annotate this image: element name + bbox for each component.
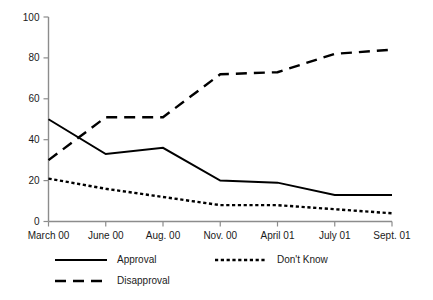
y-tick-label: 80 (28, 52, 40, 63)
series-line-approval (49, 119, 393, 195)
y-tick-label-group: 020406080100 (23, 12, 40, 228)
series-line-don-t-know (49, 179, 393, 214)
series-line-disapproval (49, 50, 393, 160)
x-axis: March 00June 00Aug. 00Nov. 00April 01Jul… (28, 222, 411, 241)
y-tick-label: 60 (28, 93, 40, 104)
x-tick-label: Nov. 00 (203, 230, 237, 241)
line-chart: 020406080100 March 00June 00Aug. 00Nov. … (0, 0, 433, 300)
y-tick-label: 100 (23, 12, 40, 23)
y-tick-label: 20 (28, 175, 40, 186)
legend-label-disapproval: Disapproval (117, 275, 170, 286)
y-tick-label: 40 (28, 134, 40, 145)
y-axis: 020406080100 (23, 12, 49, 228)
x-tick-label: April 01 (261, 230, 295, 241)
x-tick-label: Sept. 01 (373, 230, 411, 241)
data-series-group (49, 50, 393, 214)
x-tick-label: July 01 (319, 230, 351, 241)
y-tick-marks (44, 17, 49, 222)
x-tick-label: June 00 (88, 230, 124, 241)
x-tick-label-group: March 00June 00Aug. 00Nov. 00April 01Jul… (28, 230, 411, 241)
x-tick-marks (49, 222, 393, 227)
legend-label-approval: Approval (117, 254, 156, 265)
x-tick-label: March 00 (28, 230, 70, 241)
chart-canvas: 020406080100 March 00June 00Aug. 00Nov. … (0, 0, 433, 300)
legend-label-don-t-know: Don't Know (277, 254, 329, 265)
x-tick-label: Aug. 00 (146, 230, 181, 241)
chart-legend: ApprovalDon't KnowDisapproval (55, 254, 329, 286)
y-tick-label: 0 (34, 216, 40, 227)
